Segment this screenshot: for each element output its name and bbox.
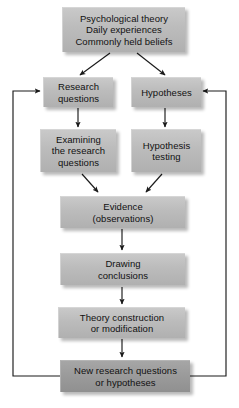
node-drawing-conclusions: Drawing conclusions (60, 253, 185, 285)
edge-examining-to-evidence (82, 174, 98, 192)
node-theory-construction-label: Theory construction or modification (80, 312, 164, 335)
node-new-research-questions: New research questions or hypotheses (60, 360, 190, 392)
node-examining-research-questions: Examining the research questions (40, 129, 116, 172)
edge-sources-to-hypotheses (137, 53, 165, 75)
node-evidence: Evidence (observations) (60, 196, 185, 228)
node-research-questions: Research questions (43, 77, 113, 107)
flowchart-diagram: Psychological theory Daily experiences C… (0, 0, 239, 408)
node-sources-label: Psychological theory Daily experiences C… (75, 13, 172, 47)
node-hypotheses: Hypotheses (131, 77, 201, 107)
node-examining-research-questions-label: Examining the research questions (52, 134, 105, 168)
node-hypotheses-label: Hypotheses (141, 87, 192, 98)
node-evidence-label: Evidence (observations) (93, 201, 154, 224)
edge-hypothesis-testing-to-evidence (146, 174, 162, 192)
node-research-questions-label: Research questions (58, 81, 99, 104)
node-drawing-conclusions-label: Drawing conclusions (98, 258, 148, 281)
node-hypothesis-testing-label: Hypothesis testing (143, 140, 191, 163)
node-hypothesis-testing: Hypothesis testing (131, 129, 201, 172)
node-theory-construction: Theory construction or modification (58, 307, 185, 338)
node-new-research-questions-label: New research questions or hypotheses (74, 365, 177, 388)
edge-sources-to-research-questions (80, 53, 110, 75)
node-sources: Psychological theory Daily experiences C… (62, 7, 185, 52)
